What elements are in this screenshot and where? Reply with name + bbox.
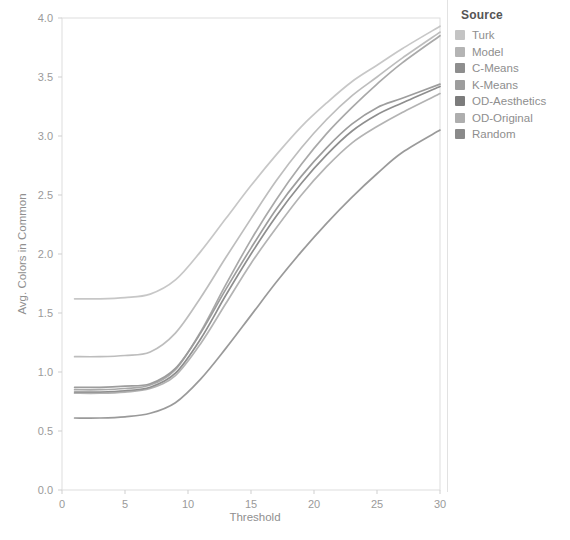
legend-item-label: Turk <box>472 29 495 41</box>
y-tick-label: 4.0 <box>38 12 53 24</box>
legend-item-label: Random <box>472 128 515 140</box>
legend-item-k-means[interactable]: K-Means <box>455 77 567 94</box>
legend-item-c-means[interactable]: C-Means <box>455 60 567 77</box>
legend-item-od-original[interactable]: OD-Original <box>455 110 567 127</box>
series-line-k-means <box>75 36 440 390</box>
legend-item-label: OD-Aesthetics <box>472 95 546 107</box>
x-axis-tick-labels: 051015202530 <box>59 498 446 510</box>
chart-container: 051015202530 0.00.51.01.52.02.53.03.54.0… <box>0 0 570 540</box>
y-tick-label: 0.0 <box>38 484 53 496</box>
x-tick-label: 0 <box>59 498 65 510</box>
y-tick-label: 2.5 <box>38 189 53 201</box>
legend-item-turk[interactable]: Turk <box>455 27 567 44</box>
x-tick-label: 30 <box>434 498 446 510</box>
series-lines <box>75 26 440 418</box>
legend-items: TurkModelC-MeansK-MeansOD-AestheticsOD-O… <box>455 27 567 143</box>
series-line-turk <box>75 26 440 299</box>
y-tick-label: 1.0 <box>38 366 53 378</box>
y-tick-label: 3.0 <box>38 130 53 142</box>
legend-title: Source <box>461 8 567 22</box>
legend-item-random[interactable]: Random <box>455 126 567 143</box>
legend-item-label: OD-Original <box>472 112 533 124</box>
y-tick-label: 3.5 <box>38 71 53 83</box>
legend-swatch-icon <box>455 47 465 57</box>
legend-item-label: C-Means <box>472 62 519 74</box>
x-axis-title: Threshold <box>229 511 280 523</box>
legend-item-od-aesthetics[interactable]: OD-Aesthetics <box>455 93 567 110</box>
legend-swatch-icon <box>455 113 465 123</box>
legend-item-model[interactable]: Model <box>455 44 567 61</box>
legend-swatch-icon <box>455 63 465 73</box>
legend-divider <box>447 0 448 492</box>
legend: Source TurkModelC-MeansK-MeansOD-Aesthet… <box>455 8 567 143</box>
y-tick-label: 2.0 <box>38 248 53 260</box>
legend-swatch-icon <box>455 96 465 106</box>
x-tick-label: 15 <box>245 498 257 510</box>
y-axis-title: Avg. Colors in Common <box>16 193 28 314</box>
series-line-c-means <box>75 84 440 387</box>
series-line-random <box>75 130 440 418</box>
x-tick-label: 20 <box>308 498 320 510</box>
y-tick-label: 1.5 <box>38 307 53 319</box>
legend-item-label: Model <box>472 46 503 58</box>
x-tick-label: 10 <box>182 498 194 510</box>
x-tick-label: 25 <box>371 498 383 510</box>
y-tick-label: 0.5 <box>38 425 53 437</box>
legend-item-label: K-Means <box>472 79 518 91</box>
x-tick-label: 5 <box>122 498 128 510</box>
y-axis-tick-labels: 0.00.51.01.52.02.53.03.54.0 <box>38 12 53 496</box>
legend-swatch-icon <box>455 30 465 40</box>
legend-swatch-icon <box>455 80 465 90</box>
legend-swatch-icon <box>455 129 465 139</box>
